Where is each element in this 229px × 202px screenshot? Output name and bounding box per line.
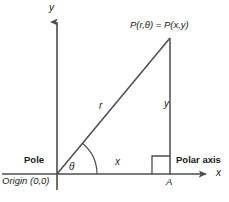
point-p-label: P(r,θ) = P(x,y) [130,20,189,30]
figure-canvas [0,0,229,202]
x-axis-label: x [216,168,221,178]
radius-label: r [99,101,102,111]
polar-coordinate-figure: P(r,θ) = P(x,y) y x r y x θ A Pole Polar… [0,0,229,202]
radius-segment [57,38,170,174]
y-axis-label: y [49,3,54,13]
origin-label: Origin (0,0) [2,176,50,186]
angle-theta-label: θ [69,162,74,172]
vertical-side-label: y [164,99,169,109]
polar-axis-label: Polar axis [176,155,221,165]
horizontal-side-label: x [115,157,120,167]
angle-arc [82,143,97,174]
pole-label: Pole [24,155,44,165]
foot-point-a-label: A [166,177,172,187]
right-angle-marker [152,156,170,174]
